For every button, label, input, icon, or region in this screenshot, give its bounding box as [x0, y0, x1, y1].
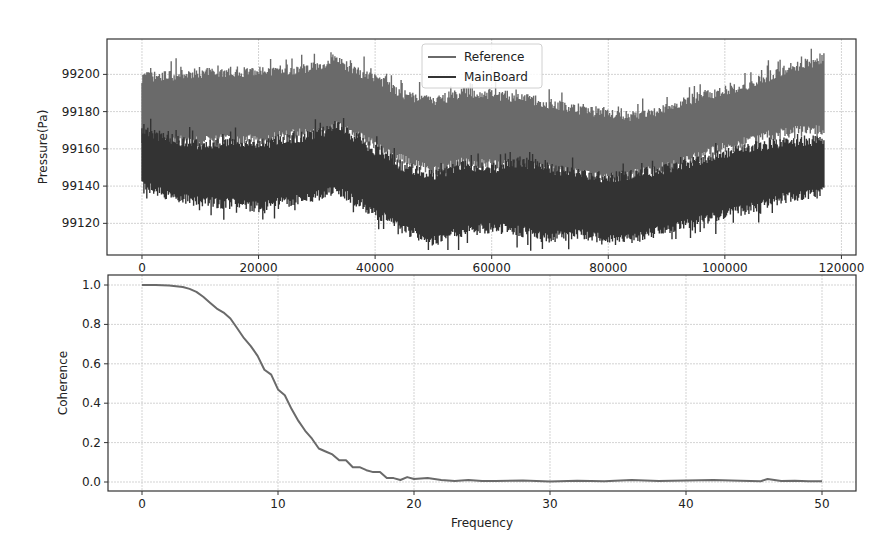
y-tick-label: 99160 — [62, 142, 100, 156]
x-tick-label: 0 — [138, 497, 146, 511]
coherence-plot: 01020304050 0.00.20.40.60.81.0 Frequency… — [56, 275, 856, 530]
x-tick-label: 120000 — [819, 261, 865, 275]
pressure-y-ticks: 9912099140991609918099200 — [62, 67, 107, 230]
legend-reference-label: Reference — [464, 50, 524, 64]
figure: 020000400006000080000100000120000 991209… — [0, 0, 895, 555]
coherence-plot-area — [108, 275, 856, 491]
x-tick-label: 20 — [406, 497, 421, 511]
legend: Reference MainBoard — [422, 44, 542, 88]
y-tick-label: 1.0 — [82, 278, 101, 292]
x-tick-label: 20000 — [239, 261, 277, 275]
y-tick-label: 0.8 — [82, 317, 101, 331]
x-tick-label: 80000 — [589, 261, 627, 275]
x-tick-label: 60000 — [473, 261, 511, 275]
x-tick-label: 50 — [814, 497, 829, 511]
y-tick-label: 0.2 — [82, 436, 101, 450]
x-tick-label: 100000 — [702, 261, 748, 275]
y-tick-label: 99140 — [62, 179, 100, 193]
pressure-y-axis-label: Pressure(Pa) — [36, 110, 50, 185]
pressure-plot: 020000400006000080000100000120000 991209… — [36, 39, 864, 275]
x-tick-label: 10 — [270, 497, 285, 511]
y-tick-label: 99200 — [62, 67, 100, 81]
coherence-y-ticks: 0.00.20.40.60.81.0 — [82, 278, 108, 489]
y-tick-label: 0.4 — [82, 396, 101, 410]
x-tick-label: 30 — [542, 497, 557, 511]
coherence-x-ticks: 01020304050 — [138, 491, 829, 511]
x-tick-label: 40 — [678, 497, 693, 511]
x-tick-label: 40000 — [356, 261, 394, 275]
y-tick-label: 0.6 — [82, 357, 101, 371]
legend-mainboard-label: MainBoard — [464, 70, 528, 84]
pressure-x-ticks: 020000400006000080000100000120000 — [138, 255, 864, 275]
y-tick-label: 99180 — [62, 105, 100, 119]
coherence-x-axis-label: Frequency — [451, 516, 513, 530]
y-tick-label: 0.0 — [82, 475, 101, 489]
x-tick-label: 0 — [138, 261, 146, 275]
y-tick-label: 99120 — [62, 216, 100, 230]
coherence-y-axis-label: Coherence — [56, 351, 70, 415]
